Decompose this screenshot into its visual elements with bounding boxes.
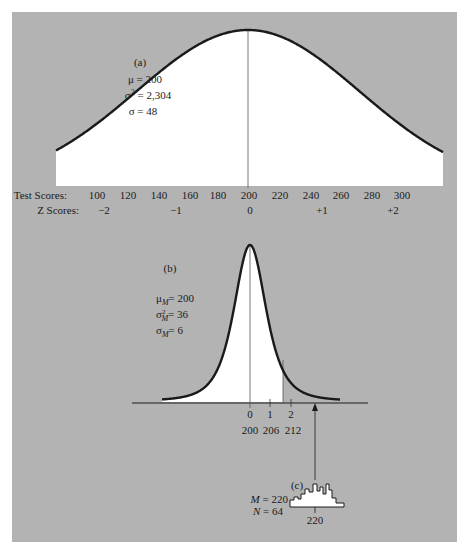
panel-a-label: (a) (134, 56, 147, 69)
z-score-tick: −1 (170, 204, 182, 216)
z-scores-ticks: −2−10+1+2 (98, 204, 399, 216)
test-score-tick: 300 (394, 189, 411, 201)
c-m-label: M = 220 (250, 493, 289, 505)
figure-canvas: (a) μ = 200 σ2 = 2,304 σ = 48 Test Score… (0, 0, 467, 551)
z-score-tick: 0 (247, 204, 253, 216)
arrow-head-icon (312, 403, 318, 411)
test-scores-ticks: 100120140160180200220240260280300 (89, 189, 411, 201)
a-sd-label: σ = 48 (129, 105, 158, 117)
b-variance-label: σ2M= 36 (156, 308, 189, 323)
b-mu-label: μM= 200 (156, 292, 195, 307)
panel-b-label: (b) (164, 262, 177, 275)
test-score-tick: 160 (182, 189, 199, 201)
b-z-tick: 0 (247, 408, 253, 420)
test-score-tick: 280 (364, 189, 381, 201)
b-z-tick: 1 (267, 408, 273, 420)
test-score-tick: 100 (89, 189, 106, 201)
panel-c-label: (c) (291, 479, 304, 492)
z-score-tick: +2 (387, 204, 399, 216)
test-score-tick: 180 (210, 189, 227, 201)
chart-c: (c) M = 220 N = 64 220 (250, 479, 344, 526)
curve-a-area (56, 30, 443, 186)
a-mu-label: μ = 200 (128, 73, 163, 85)
test-scores-axis-label: Test Scores: (14, 189, 67, 201)
test-score-tick: 200 (241, 189, 258, 201)
test-score-tick: 240 (303, 189, 320, 201)
b-sd-label: σM= 6 (156, 324, 184, 339)
test-score-tick: 260 (333, 189, 350, 201)
c-tick-label: 220 (307, 514, 324, 526)
chart-b: (b) μM= 200 σ2M= 36 σM= 6 012 200206212 (132, 245, 368, 480)
z-score-tick: −2 (98, 204, 110, 216)
c-n-label: N = 64 (252, 505, 284, 517)
test-score-tick: 140 (151, 189, 168, 201)
b-z-ticks: 012 (247, 408, 294, 420)
b-raw-tick: 206 (263, 424, 280, 436)
b-z-tick: 2 (288, 408, 294, 420)
b-raw-ticks: 200206212 (242, 424, 302, 436)
z-scores-axis-label: Z Scores: (37, 204, 79, 216)
test-score-tick: 220 (272, 189, 289, 201)
b-raw-tick: 200 (242, 424, 259, 436)
z-score-tick: +1 (316, 204, 328, 216)
test-score-tick: 120 (120, 189, 137, 201)
chart-a: (a) μ = 200 σ2 = 2,304 σ = 48 Test Score… (14, 30, 443, 216)
b-raw-tick: 212 (285, 424, 302, 436)
